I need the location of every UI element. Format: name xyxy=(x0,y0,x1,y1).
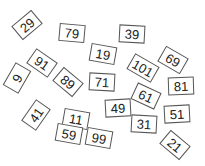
number-card[interactable]: 81 xyxy=(168,77,195,96)
card-label: 91 xyxy=(32,54,51,73)
number-card[interactable]: 91 xyxy=(26,48,58,78)
number-card[interactable]: 31 xyxy=(131,114,158,133)
number-card[interactable]: 101 xyxy=(126,53,159,83)
card-label: 89 xyxy=(58,72,77,91)
number-card[interactable]: 59 xyxy=(55,123,84,145)
card-label: 9 xyxy=(10,72,25,85)
number-card[interactable]: 61 xyxy=(130,82,161,109)
number-card[interactable]: 71 xyxy=(89,72,116,91)
card-label: 59 xyxy=(61,126,78,141)
card-label: 61 xyxy=(137,87,156,105)
card-label: 29 xyxy=(17,15,36,34)
number-card[interactable]: 79 xyxy=(58,23,85,43)
number-card[interactable]: 39 xyxy=(119,24,146,43)
card-label: 81 xyxy=(174,79,189,92)
card-label: 71 xyxy=(94,75,109,89)
card-label: 19 xyxy=(95,46,112,61)
number-card[interactable]: 69 xyxy=(157,46,189,75)
card-label: 21 xyxy=(165,135,184,154)
number-card[interactable]: 19 xyxy=(89,43,118,65)
number-card[interactable]: 41 xyxy=(21,99,51,131)
number-card[interactable]: 89 xyxy=(52,67,83,98)
number-card[interactable]: 51 xyxy=(164,104,191,123)
number-card[interactable]: 9 xyxy=(3,62,32,94)
card-label: 69 xyxy=(163,51,182,69)
number-card[interactable]: 49 xyxy=(105,98,132,117)
card-label: 51 xyxy=(169,107,184,121)
card-label: 31 xyxy=(136,117,151,131)
card-label: 101 xyxy=(130,57,155,79)
number-card[interactable]: 21 xyxy=(159,130,190,161)
card-label: 99 xyxy=(91,130,108,145)
card-label: 41 xyxy=(27,105,46,124)
card-label: 49 xyxy=(110,101,125,115)
number-card[interactable]: 29 xyxy=(11,10,42,41)
number-cards-board: 29 79 39 19 69 91 101 9 89 71 81 61 49 5… xyxy=(0,0,205,166)
card-label: 39 xyxy=(124,27,139,41)
card-label: 79 xyxy=(64,26,80,40)
number-card[interactable]: 99 xyxy=(85,127,114,149)
